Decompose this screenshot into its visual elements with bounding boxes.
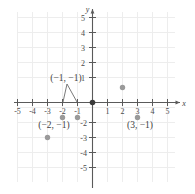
coordinate-plane: -5 -4 -3 -2 -1 1 2 3 4 5 5 4 3 2 1 -2 -3…	[0, 0, 195, 194]
x-tick-label-2: 2	[121, 107, 125, 116]
y-tick-label-5: 5	[81, 14, 85, 23]
annotation-label-neg1-neg1: (−1, −1)	[50, 73, 81, 84]
y-tick-label-neg2: -2	[80, 119, 87, 128]
x-tick-labels: -5 -4 -3 -2 -1 1 2 3 4 5	[14, 107, 169, 116]
coordinate-plane-svg: -5 -4 -3 -2 -1 1 2 3 4 5 5 4 3 2 1 -2 -3…	[0, 0, 195, 194]
x-tick-label-4: 4	[151, 107, 155, 116]
y-tick-labels: 5 4 3 2 1 -2 -3 -4 -5	[80, 14, 87, 173]
x-tick-label-neg1: -1	[74, 107, 81, 116]
x-tick-label-3: 3	[136, 107, 140, 116]
y-tick-label-neg4: -4	[80, 149, 87, 158]
y-axis	[91, 9, 95, 188]
x-tick-label-neg4: -4	[29, 107, 36, 116]
annotation-label-neg2-neg1: (−2, −1)	[38, 120, 69, 131]
y-tick-label-3: 3	[81, 44, 85, 53]
y-axis-label: y	[85, 5, 90, 14]
x-tick-label-5: 5	[166, 107, 170, 116]
annotation-label-3-neg1: (3, −1)	[127, 120, 153, 131]
data-point-neg1-neg1	[75, 115, 80, 120]
y-tick-label-neg3: -3	[80, 134, 87, 143]
data-point-neg3-neg3	[45, 135, 50, 140]
y-tick-label-4: 4	[81, 29, 85, 38]
data-point-2-1	[120, 85, 125, 90]
origin-point	[90, 100, 96, 106]
leader-lines	[63, 84, 77, 102]
x-tick-label-neg2: -2	[59, 107, 66, 116]
y-tick-label-2: 2	[81, 59, 85, 68]
x-tick-label-neg5: -5	[14, 107, 21, 116]
x-tick-label-neg3: -3	[44, 107, 51, 116]
x-axis-label: x	[181, 99, 186, 108]
x-axis	[14, 101, 180, 105]
y-tick-label-neg5: -5	[80, 164, 87, 173]
grid-lines	[18, 12, 176, 182]
x-tick-label-1: 1	[106, 107, 110, 116]
